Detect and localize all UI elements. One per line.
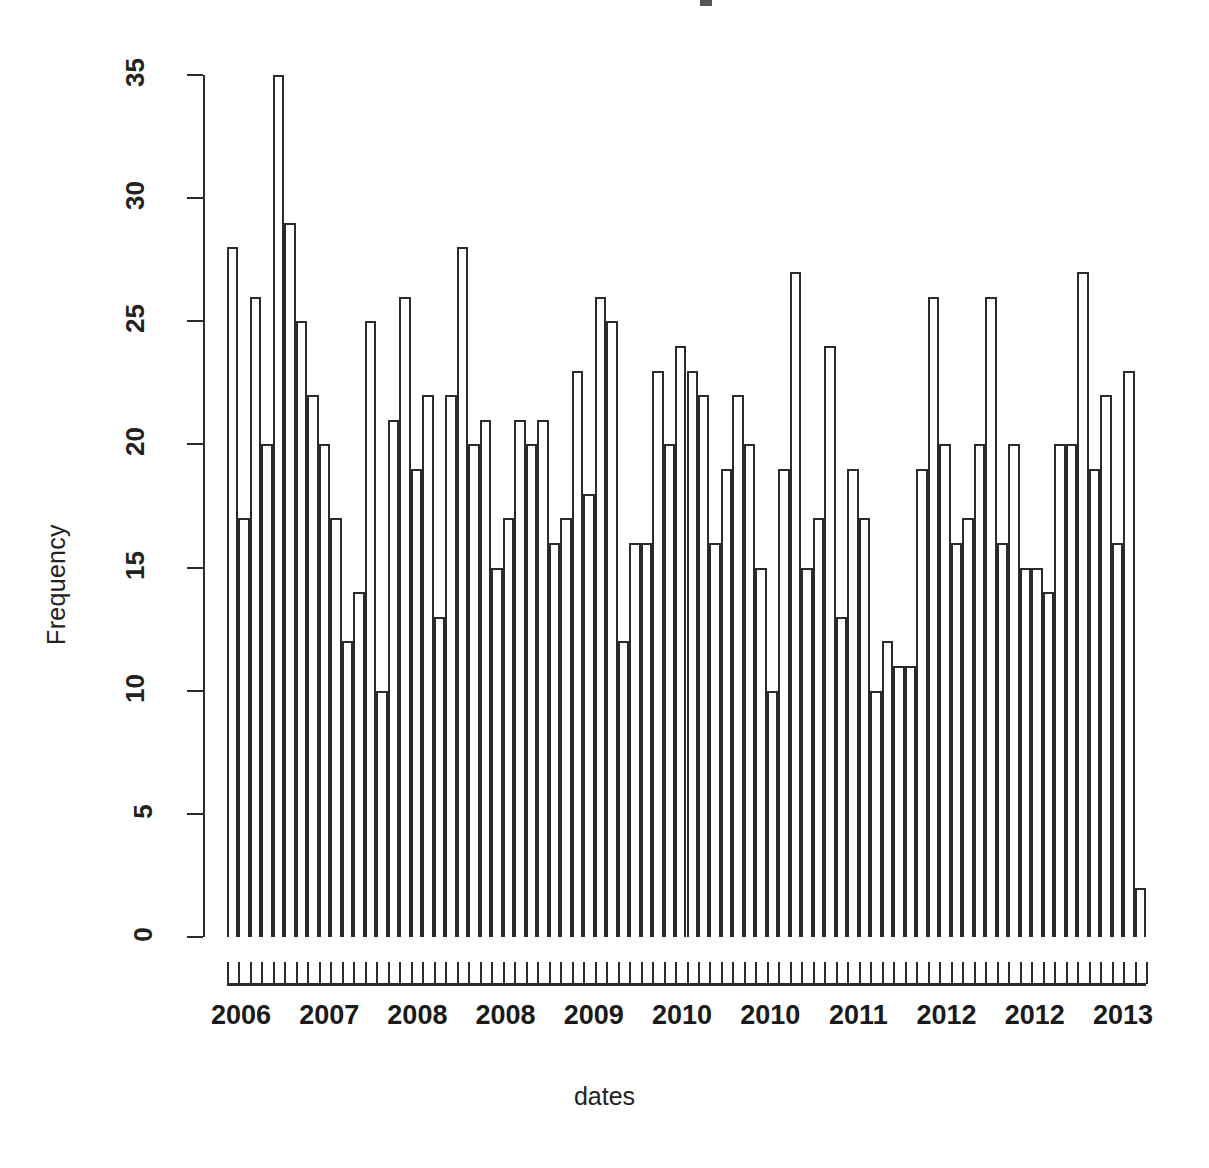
x-tick [687,962,689,984]
x-tick-label: 2007 [299,1000,359,1031]
x-tick [629,962,631,984]
x-tick [755,962,757,984]
bar [307,395,318,937]
bar [836,617,847,937]
x-tick [928,962,930,984]
x-tick [480,962,482,984]
x-tick [1123,962,1125,984]
bar [503,518,514,937]
y-tick-label: 0 [0,919,150,950]
y-tick-label: 35 [0,57,150,88]
x-tick [572,962,574,984]
x-tick [457,962,459,984]
x-tick [342,962,344,984]
x-tick [399,962,401,984]
x-tick [997,962,999,984]
bar [549,543,560,937]
x-tick [1135,962,1137,984]
bar [583,494,594,937]
x-tick [434,962,436,984]
y-tick [187,197,203,199]
x-tick [307,962,309,984]
bar [376,691,387,937]
bar [422,395,433,937]
y-tick-label: 15 [0,550,150,581]
y-tick [187,74,203,76]
x-tick [813,962,815,984]
bar [1089,469,1100,937]
bar [250,297,261,937]
x-tick [974,962,976,984]
bar [1100,395,1111,937]
bar [813,518,824,937]
x-tick [962,962,964,984]
x-tick [250,962,252,984]
x-tick [905,962,907,984]
x-tick-label: 2013 [1093,1000,1153,1031]
bar [1135,888,1146,937]
bar [709,543,720,937]
bar [974,444,985,937]
plot-area [227,75,1146,937]
y-tick [187,936,203,938]
x-tick [353,962,355,984]
y-axis-line [203,75,205,937]
x-axis-title: dates [0,1082,1209,1111]
bar [227,247,238,937]
bar [687,371,698,937]
bar [641,543,652,937]
x-tick [606,962,608,984]
x-tick [778,962,780,984]
x-tick [893,962,895,984]
bar [778,469,789,937]
x-tick [388,962,390,984]
x-tick-label: 2012 [917,1000,977,1031]
y-tick-label: 25 [0,303,150,334]
bar [652,371,663,937]
x-tick [537,962,539,984]
bar [928,297,939,937]
bar [893,666,904,937]
x-tick [939,962,941,984]
x-tick [1031,962,1033,984]
x-axis-title-text: dates [574,1082,635,1110]
x-tick [1054,962,1056,984]
bar [1043,592,1054,937]
bar [790,272,801,937]
bar [595,297,606,937]
x-tick [319,962,321,984]
bar [870,691,881,937]
chart-canvas: Frequency 05101520253035 200620072008200… [0,0,1209,1168]
y-tick [187,443,203,445]
x-tick [801,962,803,984]
bar [399,297,410,937]
bar [273,75,284,937]
bar [526,444,537,937]
x-tick [445,962,447,984]
bar [629,543,640,937]
bar [997,543,1008,937]
x-tick [1077,962,1079,984]
bar [1123,371,1134,937]
x-tick [227,962,229,984]
x-tick-label: 2009 [564,1000,624,1031]
bar [675,346,686,937]
y-tick [187,567,203,569]
bar [721,469,732,937]
bar [353,592,364,937]
bar [480,420,491,937]
bar [537,420,548,937]
bar [238,518,249,937]
bar [801,568,812,937]
x-tick [951,962,953,984]
x-tick [618,962,620,984]
bar [882,641,893,937]
x-tick [595,962,597,984]
x-tick-label: 2012 [1005,1000,1065,1031]
x-tick-label: 2010 [740,1000,800,1031]
bar [962,518,973,937]
x-tick [411,962,413,984]
x-tick [1066,962,1068,984]
bar [411,469,422,937]
bar [491,568,502,937]
